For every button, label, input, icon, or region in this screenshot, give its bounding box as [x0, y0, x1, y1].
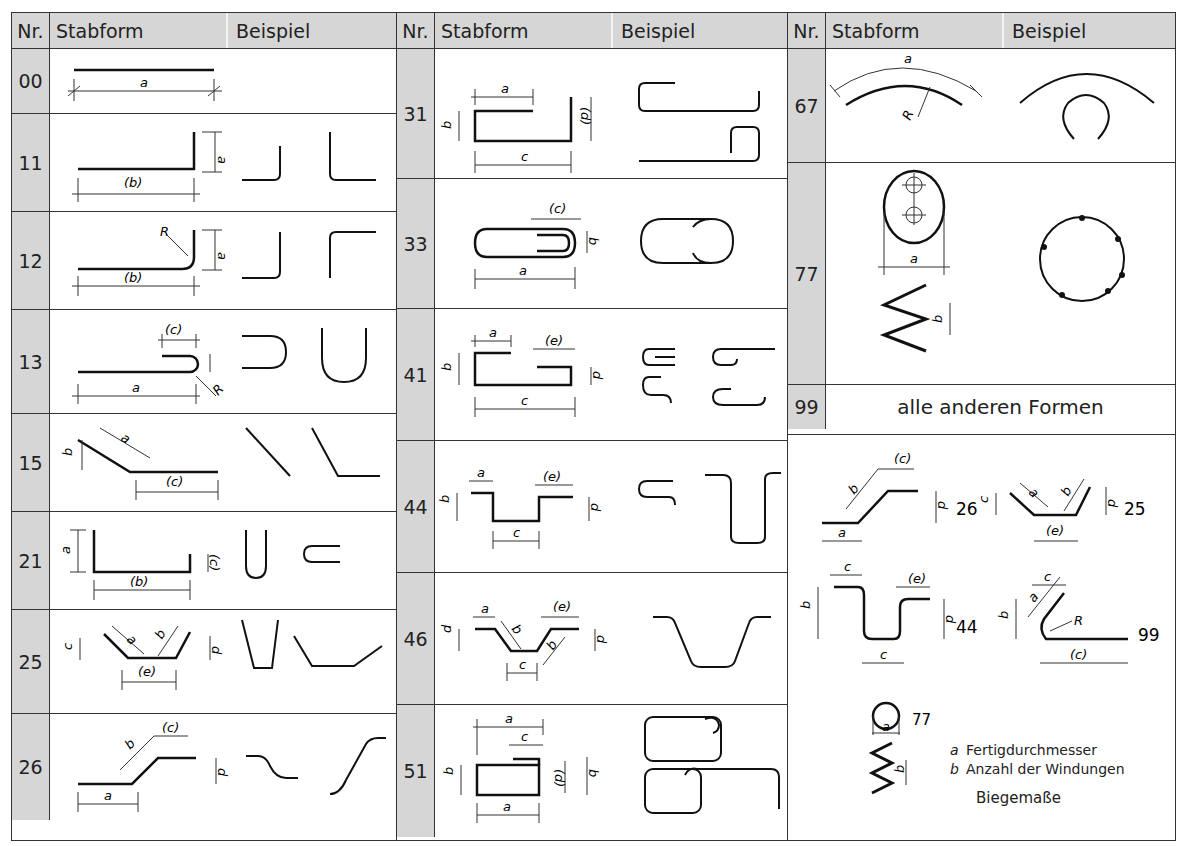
table-row: 51 a c b a (d) b: [397, 705, 788, 837]
table-row: 99 alle anderen Formen: [788, 385, 1175, 429]
table-row: 44 a (e) b d c: [397, 441, 788, 573]
shape-number: 00: [12, 49, 50, 113]
svg-text:b: b: [60, 448, 75, 456]
header-nr: Nr.: [12, 13, 50, 48]
svg-text:d: d: [439, 624, 454, 633]
shape-number: 13: [12, 310, 50, 413]
shape-table-column-1: Nr. Stabform Beispiel 00 a 11 (b) a: [11, 12, 398, 841]
svg-text:d: d: [209, 646, 224, 655]
table-row: 77 a b: [788, 163, 1175, 385]
table-row: 33 a (c) b: [397, 179, 788, 309]
svg-text:a: a: [104, 788, 112, 803]
shape-number: 99: [788, 385, 826, 429]
header-stabform: Stabform: [826, 13, 1004, 48]
svg-text:a: a: [1026, 485, 1042, 501]
shape-15-drawing: a b (c): [50, 414, 390, 512]
svg-text:a: a: [904, 51, 912, 66]
svg-text:(e): (e): [543, 469, 561, 484]
svg-text:b: b: [439, 363, 454, 371]
svg-text:(d): (d): [578, 107, 593, 125]
shape-77-drawing: a b: [826, 163, 1176, 385]
shape-number: 77: [788, 163, 826, 384]
svg-text:(c): (c): [162, 720, 179, 735]
shape-number: 31: [397, 49, 435, 178]
shape-41-drawing: a (e) b c d: [435, 309, 785, 441]
svg-text:d: d: [935, 501, 950, 510]
shape-table-column-3: Nr. Stabform Beispiel 67 a R 77 a: [787, 12, 1176, 436]
shape-25-drawing: c a b d (e): [50, 610, 390, 714]
shape-67-drawing: a R: [826, 49, 1176, 163]
svg-text:b: b: [996, 611, 1011, 619]
svg-text:a: a: [215, 252, 230, 260]
svg-text:a: a: [58, 546, 73, 554]
svg-text:d: d: [590, 371, 605, 380]
svg-text:c: c: [513, 525, 520, 540]
table-row: 31 a b c (d): [397, 49, 788, 179]
svg-text:(e): (e): [138, 664, 156, 679]
svg-text:b: b: [798, 601, 813, 609]
svg-text:(c): (c): [1070, 647, 1087, 662]
svg-text:c: c: [1044, 569, 1051, 584]
shape-00-drawing: a: [50, 49, 390, 114]
shape-31-drawing: a b c (d): [435, 49, 785, 179]
svg-text:b: b: [437, 495, 452, 503]
svg-text:a: a: [132, 380, 140, 395]
shape-46-drawing: a (e) b b d d c: [435, 573, 785, 705]
svg-text:b: b: [845, 481, 862, 497]
svg-text:(e): (e): [1046, 523, 1064, 538]
svg-text:b: b: [586, 237, 601, 245]
svg-text:c: c: [60, 643, 75, 650]
table-header: Nr. Stabform Beispiel: [397, 13, 788, 49]
svg-text:R: R: [1074, 613, 1083, 628]
svg-text:(c): (c): [165, 322, 182, 337]
legend-title: Biegemaße: [950, 789, 1125, 808]
table-header: Nr. Stabform Beispiel: [12, 13, 397, 49]
header-beispiel: Beispiel: [228, 13, 397, 48]
svg-text:b: b: [441, 767, 456, 775]
svg-text:b: b: [1058, 484, 1075, 499]
svg-text:(d): (d): [552, 769, 567, 787]
svg-text:(e): (e): [545, 333, 563, 348]
table-row: 11 (b) a: [12, 114, 397, 212]
svg-text:c: c: [880, 647, 887, 662]
svg-text:a: a: [124, 632, 140, 648]
svg-text:a: a: [481, 601, 489, 616]
header-nr: Nr.: [397, 13, 435, 48]
table-row: 26 a b (c) d: [12, 714, 397, 820]
svg-text:(c): (c): [549, 201, 566, 216]
legend-item: bAnzahl der Windungen: [950, 760, 1125, 779]
table-row: 00 a: [12, 49, 397, 114]
svg-text:(b): (b): [130, 574, 148, 589]
shape-number: 33: [397, 179, 435, 308]
svg-text:R: R: [210, 381, 227, 398]
svg-text:d: d: [588, 503, 603, 512]
svg-text:R: R: [899, 108, 916, 123]
svg-text:99: 99: [1138, 625, 1160, 645]
bending-legend: aFertigdurchmesser bAnzahl der Windungen…: [950, 741, 1125, 808]
svg-text:b: b: [892, 765, 907, 773]
svg-text:c: c: [519, 657, 526, 672]
svg-text:a: a: [503, 799, 511, 814]
svg-text:c: c: [844, 559, 851, 574]
svg-text:(b): (b): [124, 270, 142, 285]
legend-item: aFertigdurchmesser: [950, 741, 1125, 760]
shape-33-drawing: a (c) b: [435, 179, 785, 309]
svg-text:b: b: [930, 315, 945, 323]
table-row: 25 c a b d (e): [12, 610, 397, 714]
svg-text:26: 26: [956, 499, 978, 519]
header-beispiel: Beispiel: [613, 13, 788, 48]
svg-text:b: b: [439, 121, 454, 129]
shape-number: 21: [12, 512, 50, 609]
shape-51-drawing: a c b a (d) b: [435, 705, 785, 837]
svg-text:c: c: [521, 393, 528, 408]
svg-text:a: a: [519, 263, 527, 278]
svg-text:(c): (c): [894, 451, 911, 466]
svg-text:(e): (e): [553, 599, 571, 614]
svg-text:a: a: [505, 711, 513, 726]
shape-number: 26: [12, 714, 50, 820]
shape-12-drawing: R (b) a: [50, 212, 390, 310]
svg-text:d: d: [594, 635, 609, 644]
svg-text:a: a: [477, 465, 485, 480]
shape-number: 25: [12, 610, 50, 713]
svg-text:a: a: [489, 325, 497, 340]
